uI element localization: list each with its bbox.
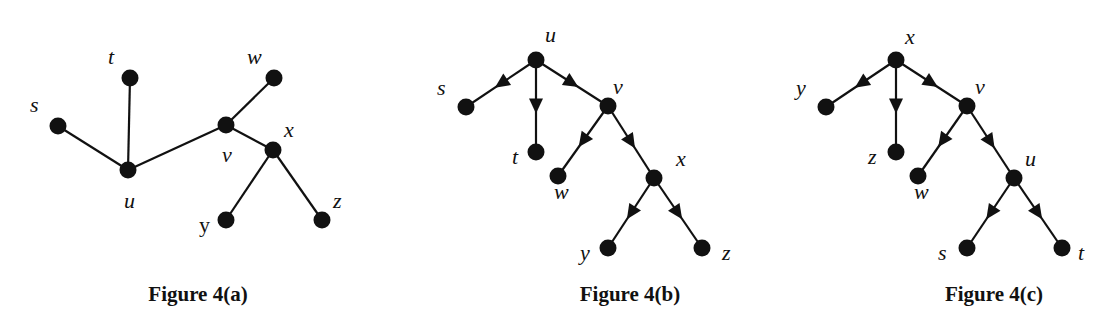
caption-figure-4c: Figure 4(c) — [945, 282, 1043, 306]
node-label-x: x — [675, 146, 686, 171]
arrowhead-icon — [938, 131, 952, 147]
node-y — [600, 240, 617, 257]
arrowhead-icon — [981, 132, 995, 148]
node-y — [818, 99, 835, 116]
edge-v-w — [226, 78, 274, 125]
node-x — [888, 52, 905, 69]
node-label-w: w — [554, 179, 569, 204]
node-label-z: z — [721, 240, 731, 265]
node-label-u: u — [545, 22, 556, 47]
arrowhead-icon — [627, 203, 641, 219]
arrowhead-icon — [1028, 203, 1042, 219]
arrowhead-icon — [579, 131, 594, 147]
node-t — [1054, 240, 1071, 257]
figure-canvas: stuwvxyz ustvwxyz xyzvwust Figure 4(a) F… — [0, 0, 1102, 322]
node-x — [646, 170, 663, 187]
figure-4b-rooted-tree-u: ustvwxyz — [437, 22, 731, 265]
node-label-x: x — [904, 24, 915, 49]
arrowhead-icon — [562, 73, 578, 87]
node-label-u: u — [1025, 146, 1036, 171]
edge-s-u — [58, 126, 128, 170]
node-label-v: v — [613, 74, 623, 99]
node-v — [959, 98, 976, 115]
figure-4a-undirected-tree: stuwvxyz — [30, 44, 342, 237]
node-label-y: y — [794, 75, 806, 100]
edge-u-v — [128, 125, 226, 170]
node-label-v: v — [222, 142, 232, 167]
node-s — [959, 240, 976, 257]
caption-figure-4a: Figure 4(a) — [148, 282, 247, 306]
node-z — [694, 240, 711, 257]
edge-t-u — [128, 78, 130, 170]
node-v — [218, 117, 235, 134]
node-s — [50, 118, 67, 135]
node-label-x: x — [283, 117, 294, 142]
arrowhead-icon — [855, 74, 871, 88]
node-label-w: w — [914, 179, 929, 204]
node-u — [1006, 170, 1023, 187]
node-label-t: t — [1078, 240, 1085, 265]
caption-figure-4b: Figure 4(b) — [580, 282, 681, 306]
node-label-w: w — [247, 44, 262, 69]
node-label-y: y — [578, 240, 590, 265]
arrowhead-icon — [495, 74, 511, 88]
node-label-s: s — [437, 75, 446, 100]
arrowhead-icon — [889, 99, 903, 114]
node-label-z: z — [332, 188, 342, 213]
node-label-y: y — [199, 212, 210, 237]
node-label-t: t — [512, 144, 519, 169]
node-w — [266, 70, 283, 87]
node-u — [528, 52, 545, 69]
arrowhead-icon — [921, 73, 937, 87]
node-v — [600, 98, 617, 115]
node-label-u: u — [124, 188, 135, 213]
arrowhead-icon — [529, 99, 543, 114]
node-label-z: z — [867, 144, 877, 169]
node-x — [265, 142, 282, 159]
node-y — [218, 212, 235, 229]
node-label-s: s — [938, 240, 947, 265]
node-s — [458, 99, 475, 116]
edge-x-y — [226, 150, 273, 220]
node-t — [528, 144, 545, 161]
arrowhead-icon — [986, 203, 1000, 219]
arrowhead-icon — [621, 132, 635, 148]
arrowhead-icon — [668, 203, 682, 219]
node-z — [314, 212, 331, 229]
edge-x-z — [273, 150, 322, 220]
node-z — [888, 144, 905, 161]
node-label-v: v — [975, 74, 985, 99]
node-t — [122, 70, 139, 87]
figure-4c-rooted-tree-x: xyzvwust — [794, 24, 1085, 265]
node-label-s: s — [30, 92, 39, 117]
node-label-t: t — [108, 44, 115, 69]
node-u — [120, 162, 137, 179]
